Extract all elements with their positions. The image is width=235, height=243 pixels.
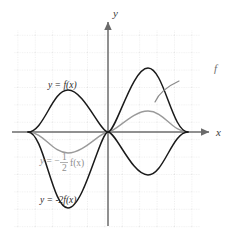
- minus-sign: −: [54, 156, 59, 166]
- label-curve-neg-two-f: y = -2f(x): [39, 195, 76, 206]
- x-axis-label: x: [215, 126, 221, 138]
- margin-f-glyph: f: [214, 62, 219, 74]
- label-fx: f(x): [70, 158, 84, 169]
- label-curve-f: y = f(x): [47, 80, 77, 91]
- svg-text:y = −: y = −: [39, 156, 60, 166]
- y-axis-label: y: [112, 7, 118, 19]
- label-curve-neg-two-f-text: y = -2f(x): [39, 195, 76, 206]
- function-transformation-figure: y x y = f(x) y = − 1 2 f(x) y = -2f(x: [0, 0, 235, 243]
- fraction-numerator: 1: [62, 152, 67, 162]
- label-curve-f-text: y = f(x): [47, 80, 77, 91]
- fraction-denominator: 2: [62, 163, 67, 173]
